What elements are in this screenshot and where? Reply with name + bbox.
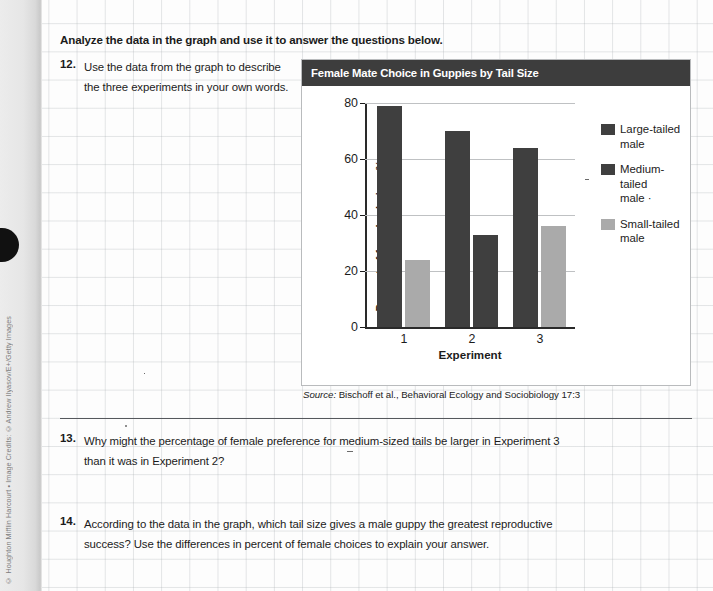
chart-panel: Female Mate Choice in Guppies by Tail Si… bbox=[301, 59, 691, 386]
chart-title: Female Mate Choice in Guppies by Tail Si… bbox=[311, 67, 539, 79]
chart-source-citation: Source: Bischoff et al., Behavioral Ecol… bbox=[303, 389, 580, 400]
ytick-label-80: 80 bbox=[344, 96, 358, 110]
ytick-label-40: 40 bbox=[344, 208, 358, 222]
ytick-mark-20 bbox=[360, 271, 365, 272]
ytick-mark-40 bbox=[360, 215, 365, 216]
plot-box: 80 60 40 20 bbox=[365, 103, 575, 327]
stray-pencil-mark bbox=[347, 451, 353, 452]
source-prefix: Source: bbox=[303, 389, 336, 400]
legend-label-medium-tailed: Medium-tailed male · bbox=[620, 162, 687, 206]
copyright-credit: © Houghton Mifflin Harcourt • Image Cred… bbox=[4, 316, 22, 585]
gridline-80: 80 bbox=[365, 103, 575, 104]
legend-item-large-tailed: Large-tailed male bbox=[601, 122, 687, 151]
legend-swatch-small-tailed bbox=[601, 219, 615, 230]
worksheet-content: Analyze the data in the graph and use it… bbox=[42, 0, 713, 591]
bar-exp2-large bbox=[445, 131, 470, 327]
xtick-label-2: 2 bbox=[469, 332, 476, 346]
question-14-text: According to the data in the graph, whic… bbox=[84, 515, 589, 554]
xtick-label-3: 3 bbox=[537, 332, 544, 346]
ytick-label-60: 60 bbox=[344, 152, 358, 166]
question-13-number: 13. bbox=[60, 432, 76, 444]
chart-legend: Large-tailed male Medium-tailed male · S… bbox=[601, 122, 687, 257]
chart-title-bar: Female Mate Choice in Guppies by Tail Si… bbox=[302, 60, 690, 86]
x-axis-title: Experiment bbox=[438, 348, 501, 361]
stray-pencil-mark bbox=[125, 425, 127, 427]
ytick-label-0: 0 bbox=[351, 320, 358, 334]
ytick-mark-0 bbox=[360, 327, 365, 328]
bar-exp1-small bbox=[405, 260, 430, 327]
question-12-text: Use the data from the graph to describe … bbox=[84, 58, 289, 97]
bar-exp1-large bbox=[377, 106, 402, 327]
xtick-label-1: 1 bbox=[401, 332, 408, 346]
bar-exp2-medium bbox=[473, 235, 498, 327]
gridline-0: 0 bbox=[365, 327, 575, 328]
ytick-mark-60 bbox=[360, 159, 365, 160]
section-divider bbox=[60, 418, 692, 419]
ytick-label-20: 20 bbox=[344, 264, 358, 278]
legend-item-medium-tailed: Medium-tailed male · bbox=[601, 162, 687, 206]
legend-swatch-large-tailed bbox=[601, 124, 615, 135]
question-14-number: 14. bbox=[60, 515, 76, 527]
bar-exp3-small bbox=[541, 226, 566, 327]
chart-plot-area: Percent of female choices % 80 60 bbox=[302, 86, 690, 386]
stray-pencil-mark bbox=[585, 179, 589, 180]
legend-label-large-tailed: Large-tailed male bbox=[620, 122, 680, 151]
worksheet-page: © Houghton Mifflin Harcourt • Image Cred… bbox=[0, 0, 713, 591]
source-text: Bischoff et al., Behavioral Ecology and … bbox=[336, 389, 580, 400]
stray-pencil-mark bbox=[144, 373, 145, 374]
bar-exp3-medium bbox=[513, 148, 538, 327]
question-13-text: Why might the percentage of female prefe… bbox=[84, 432, 584, 471]
legend-label-small-tailed: Small-tailed male bbox=[620, 217, 680, 246]
legend-swatch-medium-tailed bbox=[601, 164, 615, 175]
question-12-number: 12. bbox=[60, 58, 76, 70]
ytick-mark-80 bbox=[360, 103, 365, 104]
page-title: Analyze the data in the graph and use it… bbox=[60, 33, 443, 46]
legend-item-small-tailed: Small-tailed male bbox=[601, 217, 687, 246]
